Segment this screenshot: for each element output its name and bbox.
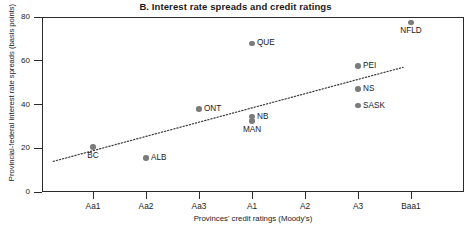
y-tick-label: 0 <box>4 188 30 196</box>
y-tick-label: 20 <box>4 144 30 152</box>
x-tick-mark <box>411 192 412 199</box>
chart-title: B. Interest rate spreads and credit rati… <box>0 1 471 12</box>
x-tick-mark <box>252 192 253 199</box>
y-tick-mark <box>34 104 42 105</box>
x-tick-label: A3 <box>338 201 378 211</box>
data-point[interactable] <box>408 20 414 26</box>
x-axis-title: Provinces' credit ratings (Moody's) <box>42 214 464 223</box>
x-tick-label: A1 <box>232 201 272 211</box>
x-tick-label: Baa1 <box>391 201 431 211</box>
x-tick-mark <box>305 192 306 199</box>
data-point-label: MAN <box>238 126 266 134</box>
x-tick-label: Aa1 <box>73 201 113 211</box>
data-point-label: NFLD <box>397 27 425 35</box>
data-point[interactable] <box>355 103 361 109</box>
data-point[interactable] <box>196 106 202 112</box>
x-tick-label: Aa2 <box>126 201 166 211</box>
data-point[interactable] <box>249 118 255 124</box>
chart-root: B. Interest rate spreads and credit rati… <box>0 0 471 229</box>
data-point[interactable] <box>249 41 255 47</box>
data-point-label: NS <box>363 85 374 93</box>
x-tick-mark <box>93 192 94 199</box>
data-point-label: BC <box>79 152 107 160</box>
data-point-label: NB <box>257 113 268 121</box>
data-point-label: PEI <box>363 62 376 70</box>
y-tick-label: 80 <box>4 13 30 21</box>
y-tick-mark <box>34 148 42 149</box>
x-tick-label: Aa3 <box>179 201 219 211</box>
y-tick-mark <box>34 60 42 61</box>
data-point-label: ONT <box>204 105 221 113</box>
y-axis-title: Provincial-federal interest rate spreads… <box>7 0 16 186</box>
y-tick-label: 60 <box>4 57 30 65</box>
x-tick-mark <box>146 192 147 199</box>
data-point-label: ALB <box>151 154 166 162</box>
x-tick-mark <box>199 192 200 199</box>
data-point-label: QUE <box>257 39 275 47</box>
x-tick-label: A2 <box>285 201 325 211</box>
y-tick-mark <box>34 17 42 18</box>
data-point[interactable] <box>355 86 361 92</box>
x-tick-mark <box>358 192 359 199</box>
data-point-label: SASK <box>363 102 385 110</box>
data-point[interactable] <box>143 155 149 161</box>
data-point[interactable] <box>355 63 361 69</box>
data-point[interactable] <box>90 144 96 150</box>
y-tick-mark <box>34 192 42 193</box>
y-tick-label: 40 <box>4 101 30 109</box>
